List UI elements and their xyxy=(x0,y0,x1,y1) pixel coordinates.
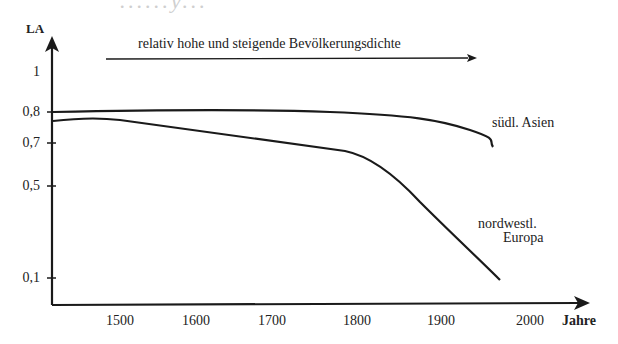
x-tick-label-1600: 1600 xyxy=(171,314,221,328)
x-tick-label-1500: 1500 xyxy=(95,314,145,328)
series-label-europe-line1: nordwestl. xyxy=(478,217,537,231)
x-axis xyxy=(52,303,578,305)
y-tick-label-0-7: 0,7 xyxy=(0,136,40,150)
x-tick-label-1700: 1700 xyxy=(247,314,297,328)
y-tick-label-0-5: 0,5 xyxy=(0,179,40,193)
series-label-south-asia: südl. Asien xyxy=(492,116,554,130)
x-tick-label-1900: 1900 xyxy=(416,314,466,328)
x-tick-label-2000: 2000 xyxy=(505,314,555,328)
x-axis-label: Jahre xyxy=(562,314,596,328)
series-label-europe-line2: Europa xyxy=(503,231,543,245)
annotation-text: relativ hohe und steigende Bevölkerungsd… xyxy=(138,37,401,51)
line-chart xyxy=(0,0,618,344)
y-tick-label-0-8: 0,8 xyxy=(0,105,40,119)
y-tick-label-1: 1 xyxy=(0,65,40,79)
series-line-northwest-europe xyxy=(53,118,500,280)
x-tick-label-1800: 1800 xyxy=(332,314,382,328)
annotation-arrow-line xyxy=(106,58,468,59)
y-axis-label: LA xyxy=(26,22,44,35)
annotation-arrow-icon xyxy=(467,54,477,62)
y-tick-label-0-1: 0,1 xyxy=(0,271,40,285)
